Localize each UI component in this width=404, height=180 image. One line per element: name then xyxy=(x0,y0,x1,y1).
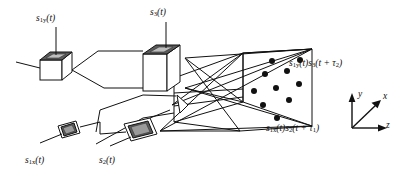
grating-dot xyxy=(260,102,266,108)
slm-s3-block xyxy=(143,22,180,91)
slm-s1y-cube xyxy=(16,27,72,80)
slm-s1x-modulator xyxy=(40,121,126,143)
label-s1x: s1x(t) xyxy=(25,156,44,166)
axis-triad xyxy=(349,93,387,131)
grating-dot xyxy=(274,115,280,121)
grating-dot xyxy=(262,71,268,77)
label-s3-arg: (t) xyxy=(157,7,166,17)
grating-dot xyxy=(251,88,257,94)
grating-dot xyxy=(273,85,279,91)
beam-s1y-to-s3 xyxy=(72,51,143,88)
grating-dot xyxy=(269,58,275,64)
label-s1x-arg: (t) xyxy=(35,155,44,165)
axis-label-x: x xyxy=(383,92,387,102)
out-top-a2: (t + τ xyxy=(315,58,335,68)
optical-diagram-figure: s1y(t) s3(t) s1x(t) s2(t) s1y(t)s3(t + τ… xyxy=(0,0,404,180)
label-s1y: s1y(t) xyxy=(36,14,55,24)
out-bot-a3: ) xyxy=(316,123,319,133)
out-bot-a1: (t) xyxy=(276,123,285,133)
out-bot-a2: (t + τ xyxy=(292,123,312,133)
label-s3: s3(t) xyxy=(150,8,166,18)
axis-label-y: y xyxy=(358,90,362,100)
out-top-a1: (t) xyxy=(299,58,308,68)
label-s2-arg: (t) xyxy=(106,155,115,165)
label-s1y-arg: (t) xyxy=(46,13,55,23)
axis-label-z: z xyxy=(386,121,390,131)
grating-dot xyxy=(286,97,292,103)
label-s2: s2(t) xyxy=(99,156,115,166)
label-output-top: s1y(t)s3(t + τ2) xyxy=(289,59,342,69)
out-top-a3: ) xyxy=(339,58,342,68)
diagram-canvas xyxy=(0,0,404,180)
grating-dot xyxy=(296,81,302,87)
label-output-bottom: s1x(t)s2(t + τ1) xyxy=(266,124,319,134)
